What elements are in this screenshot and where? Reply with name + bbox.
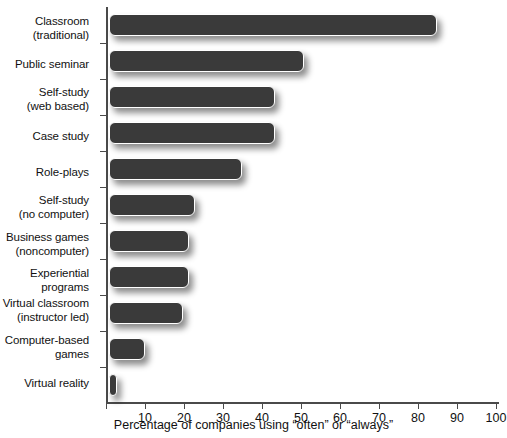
bar-virtual-reality (109, 374, 117, 396)
x-axis-tick (340, 403, 341, 409)
bar-computer-based-games (109, 338, 145, 360)
category-label-self-study-no-computer: Self-study (no computer) (0, 194, 89, 221)
category-label-case-study: Case study (0, 130, 89, 144)
category-label-classroom-traditional: Classroom (traditional) (0, 15, 89, 42)
category-label-line1: Self-study (39, 194, 89, 206)
category-label-self-study-web-based: Self-study (web based) (0, 86, 89, 113)
category-label-line1: Business games (6, 231, 89, 243)
x-axis-tick (496, 403, 497, 409)
y-axis-tick (100, 79, 106, 80)
category-label-line1: Public seminar (15, 58, 89, 70)
bar-case-study (109, 122, 275, 144)
x-axis-tick (262, 403, 263, 409)
y-axis-tick (100, 295, 106, 296)
y-axis-tick (100, 151, 106, 152)
bar-self-study-no-computer (109, 194, 195, 216)
x-axis-line (106, 402, 499, 404)
y-axis-line (106, 7, 108, 403)
y-axis-tick (100, 43, 106, 44)
category-label-computer-based-games: Computer-based games (0, 334, 89, 361)
category-label-line2: (traditional) (0, 29, 89, 43)
category-label-line1: Experiential (30, 267, 89, 279)
x-axis-tick (301, 403, 302, 409)
y-axis-tick (100, 331, 106, 332)
y-axis-tick (100, 367, 106, 368)
category-label-virtual-reality: Virtual reality (0, 377, 89, 391)
y-axis-tick (100, 115, 106, 116)
category-label-business-games-noncomputer: Business games (noncomputer) (0, 231, 89, 258)
bar-business-games-noncomputer (109, 230, 189, 252)
bar-experiential-programs (109, 266, 189, 288)
x-axis-tick (457, 403, 458, 409)
category-label-line1: Classroom (35, 15, 89, 27)
category-label-line2: (no computer) (0, 208, 89, 222)
x-axis-tick (145, 403, 146, 409)
y-axis-tick (100, 187, 106, 188)
x-axis-tick (184, 403, 185, 409)
y-axis-tick (100, 259, 106, 260)
category-label-line1: Case study (32, 130, 89, 142)
horizontal-bar-chart: Classroom (traditional) Public seminar S… (0, 0, 507, 438)
category-label-line1: Computer-based (5, 334, 89, 346)
category-label-line1: Role-plays (36, 166, 89, 178)
category-label-line1: Virtual reality (24, 377, 89, 389)
category-label-experiential-programs: Experiential programs (0, 267, 89, 294)
category-label-line2: games (0, 348, 89, 362)
bar-classroom-traditional (109, 14, 437, 36)
x-axis-tick (223, 403, 224, 409)
category-label-public-seminar: Public seminar (0, 58, 89, 72)
category-label-line2: (noncomputer) (0, 245, 89, 259)
bar-role-plays (109, 158, 242, 180)
category-label-role-plays: Role-plays (0, 166, 89, 180)
bar-public-seminar (109, 50, 304, 72)
x-axis-tick (379, 403, 380, 409)
category-label-line2: (web based) (0, 100, 89, 114)
y-axis-tick (100, 223, 106, 224)
category-label-virtual-classroom-instructor-led: Virtual classroom (instructor led) (0, 297, 89, 324)
bar-self-study-web-based (109, 86, 275, 108)
x-axis-tick (418, 403, 419, 409)
category-label-line2: (instructor led) (0, 311, 89, 325)
x-axis-tick (106, 403, 107, 409)
category-label-line1: Virtual classroom (3, 297, 89, 309)
plot-area: 10 20 30 40 50 60 70 80 90 100 (107, 7, 499, 403)
x-axis-title: Percentage of companies using “often” or… (0, 418, 507, 432)
category-label-column: Classroom (traditional) Public seminar S… (0, 7, 97, 403)
category-label-line2: programs (0, 281, 89, 295)
category-label-line1: Self-study (39, 86, 89, 98)
bar-virtual-classroom-instructor-led (109, 302, 183, 324)
